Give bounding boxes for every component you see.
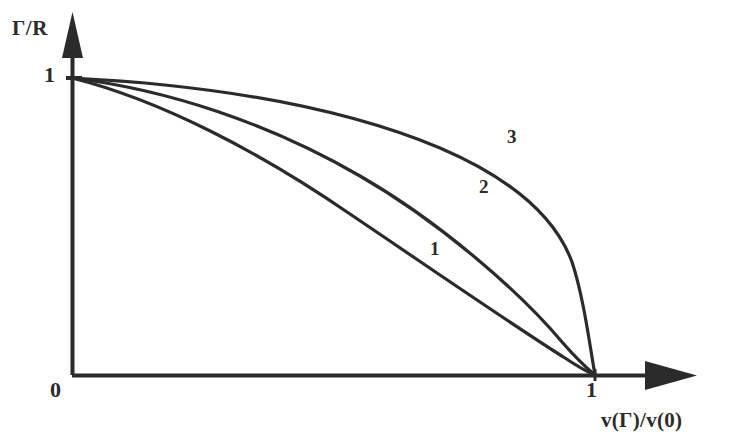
curve-3 — [72, 78, 595, 375]
curve-2 — [72, 78, 595, 375]
y-axis-title: Γ/R — [12, 18, 48, 39]
x-axis-tick-label-one: 1 — [586, 379, 597, 401]
curve-label-1: 1 — [430, 239, 440, 258]
x-axis-title: v(Γ)/v(0) — [601, 410, 682, 431]
origin-tick-label: 0 — [50, 379, 61, 401]
x-axis-arrowhead — [645, 361, 697, 390]
y-axis-tick-label-one: 1 — [44, 64, 55, 86]
curve-label-2: 2 — [479, 177, 489, 196]
curve-1 — [72, 78, 595, 375]
chart-figure: Γ/R v(Γ)/v(0) 1 0 1 1 2 3 — [0, 0, 735, 448]
curve-label-3: 3 — [507, 127, 517, 146]
y-axis-arrowhead — [62, 12, 83, 58]
plot-canvas — [0, 0, 735, 448]
